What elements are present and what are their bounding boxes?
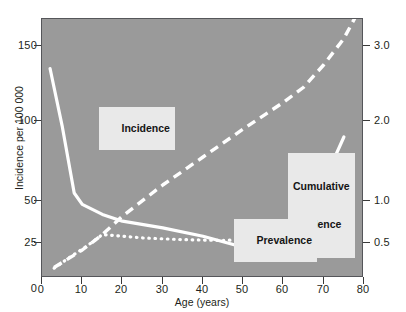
- x-tick-label-10: 10: [66, 283, 96, 295]
- x-tick-label-0: 0: [26, 283, 56, 295]
- callout-text-prevalence: Prevalence: [257, 234, 312, 246]
- x-axis-title: Age (years): [41, 296, 363, 308]
- plot-area: Incidence Cumulative incidence Prevalenc…: [41, 18, 363, 277]
- y-right-tick-label-2: 2.0: [374, 114, 390, 126]
- y-right-tick-label-0-5: 0.5: [374, 236, 390, 248]
- chart-figure: 150 100 50 25 0 3.0 2.0 1.0 0.5 0 10 20 …: [0, 0, 406, 312]
- x-tick-label-30: 30: [147, 283, 177, 295]
- y-right-tick-label-1: 1.0: [374, 194, 390, 206]
- series-callout-incidence: Incidence: [99, 107, 175, 150]
- x-tick-label-40: 40: [187, 283, 217, 295]
- x-tick-label-60: 60: [267, 283, 297, 295]
- x-tick-label-80: 80: [348, 283, 378, 295]
- y-right-tick-label-3: 3.0: [374, 39, 390, 51]
- callout-text-incidence: Incidence: [122, 122, 170, 134]
- x-tick-label-20: 20: [106, 283, 136, 295]
- x-tick-label-70: 70: [308, 283, 338, 295]
- y-axis-left-title: Incidence per 100 000: [13, 63, 25, 213]
- x-tick-label-50: 50: [227, 283, 257, 295]
- series-callout-prevalence: Prevalence: [234, 219, 317, 262]
- callout-text-cumulative-line1: Cumulative: [293, 180, 350, 193]
